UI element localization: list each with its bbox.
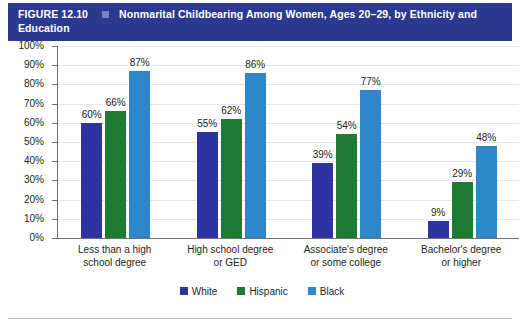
bar-value-label: 62% xyxy=(221,105,241,116)
legend-label: Black xyxy=(320,286,344,297)
y-axis-tick-label: 0% xyxy=(30,233,44,243)
category-label-line: or higher xyxy=(404,257,520,270)
category-label-line: High school degree xyxy=(173,244,289,257)
bar: 9% xyxy=(428,221,449,238)
x-axis-category-label: Less than a highschool degree xyxy=(57,244,173,269)
category-label-line: Less than a high xyxy=(57,244,173,257)
category-label-line: Bachelor's degree xyxy=(404,244,520,257)
category-label-line: or GED xyxy=(173,257,289,270)
category-label-line: or some college xyxy=(288,257,404,270)
bar: 87% xyxy=(129,71,150,238)
y-axis-tick-label: 70% xyxy=(24,99,44,109)
bar: 77% xyxy=(360,90,381,238)
bar-value-label: 77% xyxy=(361,76,381,87)
y-axis-tick-label: 100% xyxy=(18,41,44,51)
y-axis-tick-label: 40% xyxy=(24,156,44,166)
chart-plot-region: 100%90%80%70%60%50%40%30%20%10%0% 60%66%… xyxy=(0,46,524,324)
figure-container: FIGURE 12.10Nonmarital Childbearing Amon… xyxy=(0,0,524,324)
legend-label: Hispanic xyxy=(249,286,287,297)
legend-item[interactable]: Black xyxy=(308,286,344,298)
x-axis-category-labels: Less than a highschool degreeHigh school… xyxy=(57,244,519,278)
category-label-line: Associate's degree xyxy=(288,244,404,257)
bar: 54% xyxy=(336,134,357,238)
y-axis-tick-label: 80% xyxy=(24,79,44,89)
bar-value-label: 54% xyxy=(337,120,357,131)
plot-area: 60%66%87%55%62%86%39%54%77%9%29%48% xyxy=(57,46,519,238)
legend-label: White xyxy=(192,286,218,297)
bar: 66% xyxy=(105,111,126,238)
y-axis: 100%90%80%70%60%50%40%30%20%10%0% xyxy=(0,46,52,238)
bar: 48% xyxy=(476,146,497,238)
x-axis-category-label: High school degreeor GED xyxy=(173,244,289,269)
bar-group: 60%66%87% xyxy=(58,46,174,238)
figure-header-bar: FIGURE 12.10Nonmarital Childbearing Amon… xyxy=(8,3,512,41)
bar-value-label: 60% xyxy=(82,109,102,120)
bar-value-label: 55% xyxy=(197,118,217,129)
bottom-divider xyxy=(8,318,512,319)
y-axis-tick-label: 60% xyxy=(24,118,44,128)
bar-value-label: 48% xyxy=(476,132,496,143)
bar-group: 9%29%48% xyxy=(405,46,521,238)
bar: 55% xyxy=(197,132,218,238)
y-axis-tick-label: 90% xyxy=(24,60,44,70)
y-axis-tick-label: 10% xyxy=(24,214,44,224)
bar: 62% xyxy=(221,119,242,238)
figure-header-line-1: FIGURE 12.10Nonmarital Childbearing Amon… xyxy=(18,7,504,21)
chart-legend: WhiteHispanicBlack xyxy=(0,286,524,298)
y-axis-tick-label: 30% xyxy=(24,175,44,185)
figure-title-line-1: Nonmarital Childbearing Among Women, Age… xyxy=(119,7,477,21)
bar-group: 55%62%86% xyxy=(174,46,290,238)
bar: 39% xyxy=(312,163,333,238)
x-axis-category-label: Associate's degreeor some college xyxy=(288,244,404,269)
legend-swatch-icon xyxy=(180,287,188,295)
bar-value-label: 87% xyxy=(130,57,150,68)
figure-title-line-2: Education xyxy=(18,21,504,35)
legend-item[interactable]: Hispanic xyxy=(237,286,287,298)
bar: 29% xyxy=(452,182,473,238)
bar-value-label: 39% xyxy=(313,149,333,160)
legend-item[interactable]: White xyxy=(180,286,218,298)
legend-swatch-icon xyxy=(308,287,316,295)
legend-swatch-icon xyxy=(237,287,245,295)
x-axis-baseline xyxy=(57,238,519,239)
bar: 60% xyxy=(81,123,102,238)
bar: 86% xyxy=(245,73,266,238)
square-marker-icon xyxy=(102,11,109,18)
bar-value-label: 9% xyxy=(431,207,445,218)
bar-value-label: 86% xyxy=(245,59,265,70)
y-axis-tick-label: 50% xyxy=(24,137,44,147)
bar-group: 39%54%77% xyxy=(289,46,405,238)
figure-number-label: FIGURE 12.10 xyxy=(18,7,88,21)
x-axis-category-label: Bachelor's degreeor higher xyxy=(404,244,520,269)
category-label-line: school degree xyxy=(57,257,173,270)
bar-value-label: 66% xyxy=(106,97,126,108)
bar-value-label: 29% xyxy=(452,168,472,179)
y-axis-tick-label: 20% xyxy=(24,195,44,205)
